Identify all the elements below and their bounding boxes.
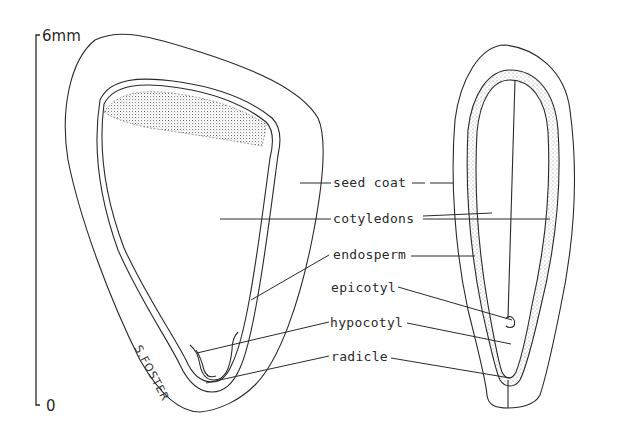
scale-top-label: 6mm	[42, 28, 81, 44]
label-epicotyl: epicotyl	[331, 281, 396, 295]
left-seed	[65, 34, 323, 412]
label-radicle: radicle	[331, 350, 388, 364]
label-cotyledons: cotyledons	[333, 212, 414, 226]
seed-diagram: 6mm 0 S.FOSTER seed coat cotyledons endo…	[0, 0, 643, 440]
seed-drawing	[0, 0, 643, 440]
leader-hypocotyl	[197, 322, 329, 353]
label-seed-coat: seed coat	[333, 176, 406, 190]
leader-radicle	[206, 356, 329, 383]
scale-bottom-label: 0	[46, 398, 56, 414]
label-endosperm: endosperm	[333, 248, 406, 262]
leader-endosperm	[251, 255, 329, 300]
label-hypocotyl: hypocotyl	[330, 316, 403, 330]
scale-bar	[36, 35, 40, 405]
right-seed	[453, 45, 574, 408]
